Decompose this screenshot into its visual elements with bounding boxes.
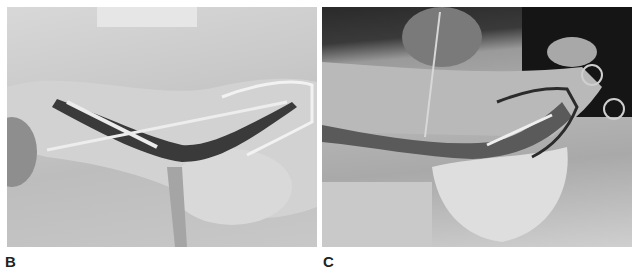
panel-label-b: B (5, 253, 16, 270)
photo-b-illustration (7, 7, 317, 247)
surgical-photo-b (7, 7, 317, 247)
surgical-photo-c (322, 7, 632, 247)
photo-c-illustration (322, 7, 632, 247)
panel-label-c: C (323, 253, 334, 270)
